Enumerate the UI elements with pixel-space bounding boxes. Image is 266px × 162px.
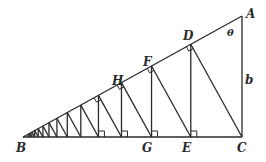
right-angle-mark — [98, 131, 104, 137]
label-H: H — [112, 75, 123, 87]
perpendicular-to-AB — [121, 83, 151, 137]
right-angle-mark — [121, 131, 127, 137]
label-D: D — [183, 30, 193, 42]
right-angle-mark — [152, 131, 158, 137]
triangle-diagram: A θ D F H b B G E C — [0, 0, 266, 162]
perpendicular-to-AB — [38, 129, 43, 137]
perpendicular-to-AB — [81, 105, 99, 137]
perpendicular-to-AB — [191, 44, 242, 137]
label-theta: θ — [227, 27, 234, 39]
label-E: E — [182, 142, 191, 154]
label-b: b — [245, 74, 253, 86]
perpendicular-to-AB — [43, 126, 49, 137]
label-C: C — [237, 142, 247, 154]
label-A: A — [246, 8, 255, 20]
label-B: B — [16, 142, 26, 154]
diagram-lines — [0, 0, 266, 162]
right-angle-mark — [191, 131, 197, 137]
label-F: F — [143, 56, 152, 68]
perpendicular-to-AB — [67, 113, 81, 137]
label-G: G — [142, 142, 152, 154]
perpendicular-to-AB — [57, 118, 67, 137]
perpendicular-to-AB — [152, 66, 191, 137]
perpendicular-to-AB — [49, 123, 57, 137]
